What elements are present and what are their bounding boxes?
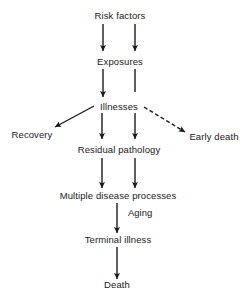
node-exposures: Exposures — [97, 57, 143, 67]
node-multiple-disease-processes: Multiple disease processes — [60, 191, 177, 201]
node-death: Death — [104, 280, 130, 290]
node-risk-factors: Risk factors — [95, 11, 146, 21]
node-recovery: Recovery — [12, 130, 53, 140]
edge-illnesses-recovery — [55, 106, 94, 127]
edge-illnesses-early-death — [144, 107, 185, 132]
node-residual-pathology: Residual pathology — [78, 145, 161, 155]
edge-label-aging: Aging — [128, 208, 152, 218]
node-illnesses: Illnesses — [100, 102, 138, 112]
node-terminal-illness: Terminal illness — [85, 235, 152, 245]
node-early-death: Early death — [189, 132, 238, 142]
